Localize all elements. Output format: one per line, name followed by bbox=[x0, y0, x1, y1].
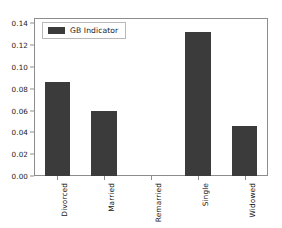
bar bbox=[45, 82, 71, 176]
y-axis-tick-label: 0.06 bbox=[12, 106, 28, 115]
bar-chart-figure: 0.000.020.040.060.080.100.120.14 Divorce… bbox=[0, 0, 282, 228]
x-axis-tick-label: Married bbox=[107, 183, 116, 212]
x-axis-tick-label: Single bbox=[201, 183, 210, 206]
x-axis-tick-mark bbox=[57, 176, 58, 180]
y-axis-tick-label: 0.02 bbox=[12, 150, 28, 159]
bar bbox=[91, 111, 117, 176]
legend-swatch-gb-indicator bbox=[48, 27, 65, 34]
x-axis-tick-label: Widowed bbox=[248, 183, 257, 217]
x-axis-tick-label: Divorced bbox=[60, 183, 69, 217]
y-axis-tick-label: 0.00 bbox=[12, 172, 28, 181]
y-axis-tick-label: 0.08 bbox=[12, 84, 28, 93]
x-axis-tick-mark bbox=[151, 176, 152, 180]
x-axis-tick-mark bbox=[245, 176, 246, 180]
x-axis-tick-label: Remarried bbox=[154, 183, 163, 222]
x-axis-tick-mark bbox=[198, 176, 199, 180]
bar bbox=[185, 32, 211, 176]
bar bbox=[232, 126, 258, 176]
y-axis-tick-label: 0.14 bbox=[12, 19, 28, 28]
y-axis-tick-label: 0.12 bbox=[12, 41, 28, 50]
chart-legend: GB Indicator bbox=[42, 22, 126, 39]
y-axis: 0.000.020.040.060.080.100.120.14 bbox=[0, 0, 34, 194]
y-axis-tick-label: 0.04 bbox=[12, 128, 28, 137]
y-axis-tick-label: 0.10 bbox=[12, 63, 28, 72]
x-axis-tick-mark bbox=[104, 176, 105, 180]
legend-label-gb-indicator: GB Indicator bbox=[70, 26, 118, 35]
